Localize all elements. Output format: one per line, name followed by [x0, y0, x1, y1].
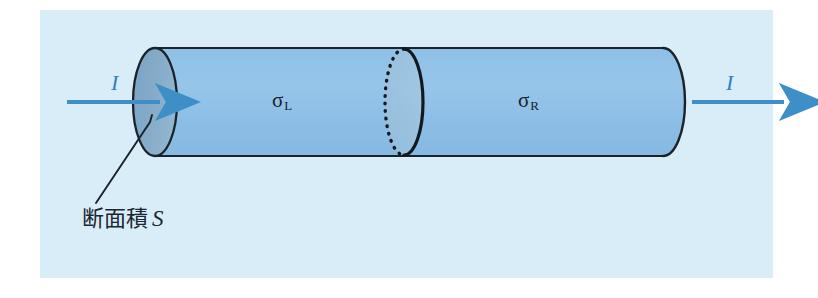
cross-section-area-symbol: S: [148, 206, 164, 231]
sigma-left-symbol: σ: [272, 88, 283, 112]
interface-ellipse: [385, 49, 423, 155]
cross-section-area-text: 断面積: [82, 206, 148, 231]
sigma-left-subscript: L: [284, 98, 292, 113]
sigma-left-label: σL: [272, 90, 291, 111]
current-in-label: I: [111, 72, 118, 94]
sigma-right-label: σR: [518, 90, 538, 111]
sigma-right-symbol: σ: [518, 88, 529, 112]
figure-root: σL σR I I 断面積S: [0, 0, 818, 298]
sigma-right-subscript: R: [530, 98, 539, 113]
current-out-label: I: [726, 72, 733, 94]
cylinder-diagram: [0, 0, 818, 298]
cross-section-area-label: 断面積S: [82, 207, 164, 230]
